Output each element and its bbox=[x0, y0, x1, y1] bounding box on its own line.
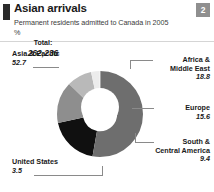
leader-line-united-states bbox=[34, 175, 103, 176]
callout-asia-pacific-value: 52.7 bbox=[12, 59, 60, 68]
leader-line-africa-middle-east bbox=[130, 60, 153, 61]
total-label: Total: bbox=[24, 39, 62, 46]
callout-africa-middle-east: Africa & Middle East 18.8 bbox=[170, 56, 210, 82]
leader-line-south-central-america-stem bbox=[135, 133, 136, 143]
page-title: Asian arrivals bbox=[14, 2, 87, 14]
leader-line-europe bbox=[132, 108, 154, 109]
callout-south-central-america-value: 9.4 bbox=[155, 155, 210, 164]
chart-header: Asian arrivals Permanent residents admit… bbox=[0, 0, 214, 44]
leader-line-united-states-stem bbox=[102, 166, 103, 176]
callout-africa-middle-east-value: 18.8 bbox=[170, 73, 210, 82]
chart-subtitle: Permanent residents admitted to Canada i… bbox=[14, 18, 168, 27]
leader-line-africa-middle-east-stem bbox=[130, 60, 131, 69]
callout-europe: Europe 15.6 bbox=[185, 104, 210, 121]
callout-europe-value: 15.6 bbox=[185, 113, 210, 122]
callout-united-states-value: 3.5 bbox=[12, 167, 58, 176]
leader-line-south-central-america bbox=[135, 142, 154, 143]
donut-center-hole bbox=[81, 88, 119, 126]
page-number-badge: 2 bbox=[196, 3, 210, 17]
asian-arrivals-chart-card: Asian arrivals Permanent residents admit… bbox=[0, 0, 214, 192]
title-bar-icon bbox=[3, 4, 10, 20]
donut-chart bbox=[57, 58, 143, 170]
callout-united-states: United States 3.5 bbox=[12, 158, 58, 175]
unit-label: % bbox=[14, 28, 20, 37]
leader-line-asia-pacific bbox=[33, 67, 59, 68]
callout-south-central-america: South & Central America 9.4 bbox=[155, 138, 210, 164]
callout-asia-pacific: Asia & Pacific 52.7 bbox=[12, 50, 60, 67]
